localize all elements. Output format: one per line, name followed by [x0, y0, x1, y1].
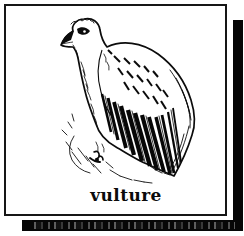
- flashcard-screen: vulture: [0, 0, 244, 236]
- illegible-fine-print: [30, 222, 235, 229]
- caption-label: vulture: [52, 185, 200, 205]
- vulture-illustration-icon: [52, 14, 200, 186]
- flashcard: vulture: [4, 4, 233, 220]
